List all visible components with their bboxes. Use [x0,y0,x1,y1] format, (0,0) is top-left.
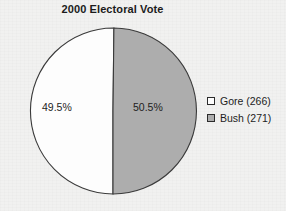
legend-item-gore: Gore (266) [207,92,285,109]
pie-chart-figure: 2000 Electoral Vote 49.5% 50.5% Gore (26… [0,0,286,211]
legend-label-bush: Bush (271) [220,112,271,124]
chart-title: 2000 Electoral Vote [0,3,225,15]
chart-legend: Gore (266) Bush (271) [207,92,285,126]
legend-item-bush: Bush (271) [207,109,285,126]
slice-label-bush: 50.5% [133,101,163,113]
legend-swatch-gore-icon [207,97,215,105]
legend-label-gore: Gore (266) [220,95,271,107]
legend-swatch-bush-icon [207,114,215,122]
slice-label-gore: 49.5% [42,101,72,113]
